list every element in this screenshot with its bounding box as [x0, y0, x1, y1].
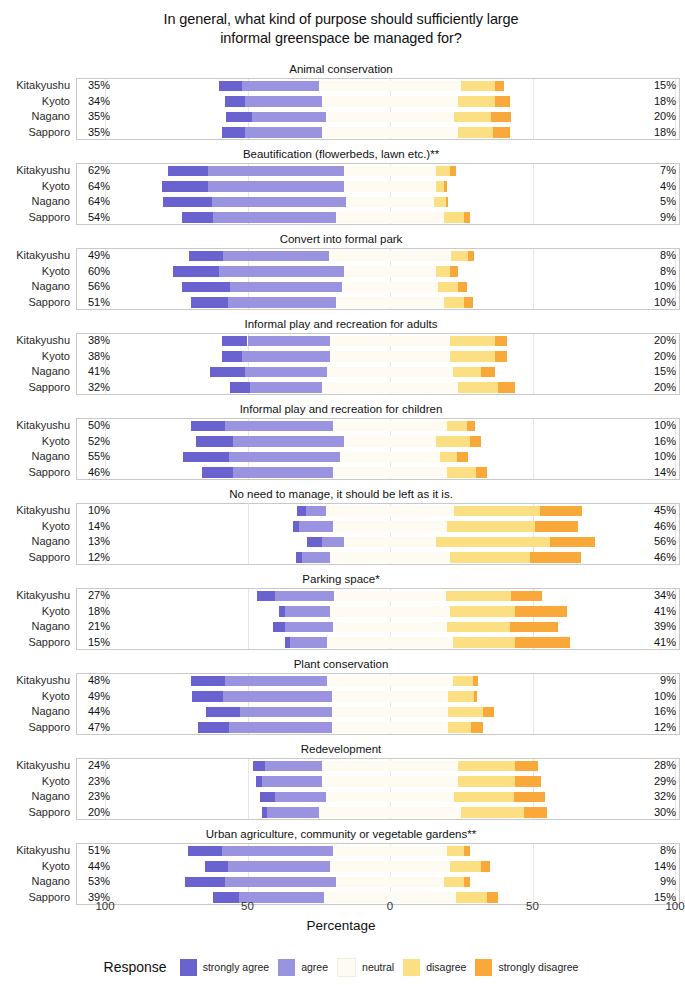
strongly-agree-segment [196, 436, 233, 447]
disagree-total-value: 14% [616, 465, 676, 481]
agree-total-value: 44% [88, 704, 148, 720]
disagree-segment [450, 552, 530, 563]
neutral-segment [333, 467, 447, 478]
agree-segment [212, 197, 346, 208]
strongly-agree-segment [230, 382, 250, 393]
chart-row: Kitakyushu27%39%34% [0, 588, 682, 604]
agree-segment [252, 112, 326, 123]
agree-segment [285, 622, 333, 633]
agree-total-value: 18% [88, 604, 148, 620]
agree-total-value: 49% [88, 248, 148, 264]
disagree-segment [436, 436, 470, 447]
chart-panel: Animal conservationKitakyushu35%50%15%Ky… [0, 62, 682, 147]
neutral-segment [342, 282, 439, 293]
strongly-agree-segment [189, 251, 223, 262]
disagree-segment [438, 282, 458, 293]
strongly-disagree-segment [467, 421, 476, 432]
legend-item[interactable]: agree [278, 959, 328, 976]
strongly-agree-segment [188, 846, 222, 857]
agree-total-value: 49% [88, 689, 148, 705]
agree-total-value: 55% [88, 449, 148, 465]
agree-total-value: 38% [88, 333, 148, 349]
city-label: Kitakyushu [0, 333, 70, 349]
disagree-segment [454, 506, 540, 517]
city-label: Kyoto [0, 434, 70, 450]
strongly-agree-segment [225, 96, 245, 107]
agree-segment [223, 251, 328, 262]
x-axis-tick-label: 100 [95, 900, 114, 912]
chart-row: Sapporo15%44%41% [0, 635, 682, 651]
strongly-disagree-segment [493, 127, 510, 138]
city-label: Kitakyushu [0, 503, 70, 519]
disagree-segment [444, 877, 464, 888]
city-label: Kyoto [0, 349, 70, 365]
panel-title: Convert into formal park [0, 232, 682, 246]
neutral-segment [327, 637, 452, 648]
agree-total-value: 24% [88, 758, 148, 774]
disagree-total-value: 46% [616, 519, 676, 535]
neutral-segment [326, 112, 454, 123]
neutral-segment [330, 861, 450, 872]
city-label: Kyoto [0, 519, 70, 535]
neutral-segment [330, 336, 450, 347]
neutral-segment [332, 722, 449, 733]
neutral-segment [340, 452, 440, 463]
chart-row: Nagano21%40%39% [0, 619, 682, 635]
city-label: Nagano [0, 619, 70, 635]
chart-row: Sapporo47%41%12% [0, 720, 682, 736]
agree-segment [223, 691, 331, 702]
disagree-total-value: 46% [616, 550, 676, 566]
legend-swatch-icon [475, 959, 492, 976]
disagree-total-value: 39% [616, 619, 676, 635]
legend-item[interactable]: strongly agree [180, 959, 270, 976]
disagree-total-value: 10% [616, 418, 676, 434]
panel-rows: Kitakyushu35%50%15%Kyoto34%48%18%Nagano3… [0, 78, 682, 140]
panel-rows: Kitakyushu50%40%10%Kyoto52%32%16%Nagano5… [0, 418, 682, 480]
neutral-segment [344, 436, 435, 447]
x-axis-tick-label: 50 [241, 900, 254, 912]
agree-total-value: 23% [88, 774, 148, 790]
neutral-segment [336, 297, 444, 308]
strongly-agree-segment [191, 421, 225, 432]
strongly-disagree-segment [476, 467, 487, 478]
strongly-agree-segment [257, 591, 274, 602]
disagree-segment [450, 606, 516, 617]
agree-total-value: 35% [88, 78, 148, 94]
legend-item[interactable]: strongly disagree [475, 959, 578, 976]
strongly-agree-segment [307, 537, 321, 548]
agree-total-value: 54% [88, 210, 148, 226]
neutral-segment [322, 776, 459, 787]
strongly-agree-segment [260, 792, 274, 803]
city-label: Nagano [0, 534, 70, 550]
agree-total-value: 38% [88, 349, 148, 365]
legend-swatch-icon [180, 959, 197, 976]
chart-panel: Parking space*Kitakyushu27%39%34%Kyoto18… [0, 572, 682, 657]
disagree-total-value: 8% [616, 843, 676, 859]
city-label: Kitakyushu [0, 588, 70, 604]
legend-label: disagree [426, 961, 466, 973]
chart-row: Kitakyushu10%45%45% [0, 503, 682, 519]
chart-panel: Beautification (flowerbeds, lawn etc.)**… [0, 147, 682, 232]
strongly-disagree-segment [495, 336, 506, 347]
disagree-total-value: 20% [616, 333, 676, 349]
agree-total-value: 53% [88, 874, 148, 890]
agree-total-value: 34% [88, 94, 148, 110]
disagree-segment [453, 676, 473, 687]
panel-title: Plant conservation [0, 657, 682, 671]
disagree-segment [444, 212, 464, 223]
strongly-disagree-segment [495, 96, 509, 107]
panel-rows: Kitakyushu27%39%34%Kyoto18%42%41%Nagano2… [0, 588, 682, 650]
agree-total-value: 12% [88, 550, 148, 566]
panel-title: No need to manage, it should be left as … [0, 487, 682, 501]
strongly-agree-segment [222, 127, 245, 138]
chart-row: Sapporo32%48%20% [0, 380, 682, 396]
legend-item[interactable]: neutral [337, 958, 394, 977]
legend-item[interactable]: disagree [403, 959, 466, 976]
agree-total-value: 44% [88, 859, 148, 875]
strongly-disagree-segment [515, 637, 569, 648]
city-label: Kitakyushu [0, 78, 70, 94]
disagree-total-value: 12% [616, 720, 676, 736]
disagree-segment [436, 166, 450, 177]
neutral-segment [334, 591, 445, 602]
legend-label: strongly disagree [498, 961, 578, 973]
